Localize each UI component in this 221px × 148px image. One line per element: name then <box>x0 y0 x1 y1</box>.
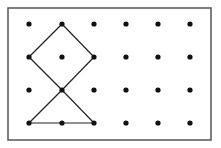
grid-dot <box>26 87 31 92</box>
grid-dot <box>155 21 160 26</box>
grid-dot <box>123 54 128 59</box>
grid-dot <box>59 21 64 26</box>
line-segment <box>29 90 62 123</box>
grid-dot <box>187 87 192 92</box>
grid-dot <box>91 87 96 92</box>
grid-dot <box>187 54 192 59</box>
grid-dot <box>26 21 31 26</box>
grid-dot <box>123 120 128 125</box>
line-segment <box>62 24 94 57</box>
grid-dot <box>123 87 128 92</box>
grid-dot <box>155 120 160 125</box>
geoboard-diagram <box>0 0 221 148</box>
grid-dot <box>91 21 96 26</box>
grid-dot <box>123 21 128 26</box>
grid-dot <box>59 87 64 92</box>
grid-dot <box>187 21 192 26</box>
line-segment <box>29 24 62 57</box>
grid-dot <box>26 54 31 59</box>
grid-dot <box>187 120 192 125</box>
grid-dot <box>59 54 64 59</box>
line-segment <box>62 57 94 90</box>
grid-dot <box>91 54 96 59</box>
grid-dot <box>59 120 64 125</box>
grid-dot <box>155 87 160 92</box>
dot-grid <box>26 21 192 125</box>
line-segment <box>29 57 62 90</box>
line-segments <box>29 24 94 123</box>
line-segment <box>62 90 94 123</box>
diagram-border <box>8 8 211 140</box>
grid-dot <box>155 54 160 59</box>
grid-dot <box>91 120 96 125</box>
grid-dot <box>26 120 31 125</box>
